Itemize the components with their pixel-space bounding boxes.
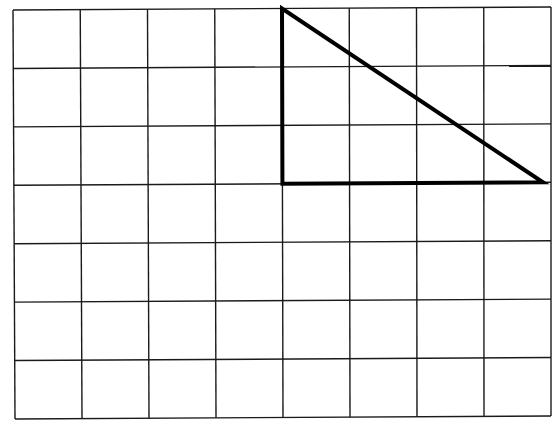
grid-line-vertical xyxy=(349,8,350,417)
grid-diagram xyxy=(0,0,559,428)
grid-line-vertical xyxy=(13,10,15,419)
right-triangle xyxy=(282,9,543,184)
grid-line-vertical xyxy=(417,8,418,417)
grid-line-vertical xyxy=(215,9,216,418)
grid-line-vertical xyxy=(80,10,82,419)
grid-line-vertical xyxy=(148,9,150,418)
